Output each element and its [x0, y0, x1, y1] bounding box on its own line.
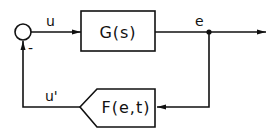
summing-junction [15, 24, 31, 40]
feedback-block-label: F(e,t) [102, 98, 151, 117]
feedback-path-right [157, 32, 209, 107]
minus-sign: - [28, 40, 33, 56]
block-diagram: u G(s) e F(e,t) u' - [0, 0, 280, 135]
signal-u-prime-label: u' [45, 88, 58, 104]
forward-block-label: G(s) [99, 23, 136, 42]
signal-e-label: e [195, 13, 204, 29]
signal-u-label: u [46, 13, 55, 29]
